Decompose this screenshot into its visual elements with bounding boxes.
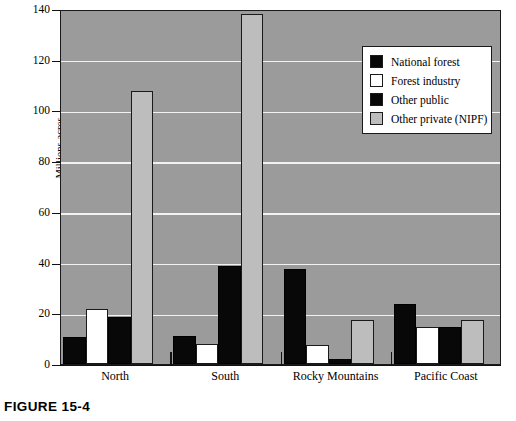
legend-item: Other private (NIPF) [370,109,485,128]
x-axis-label-south: South [170,369,280,384]
x-axis-label-rocky-mountains: Rocky Mountains [281,369,391,384]
legend-swatch-icon [370,74,383,87]
y-tick-label: 140 [16,4,50,16]
legend-item: Forest industry [370,71,485,90]
bar-south-national-forest [173,336,196,364]
y-tick-mark [52,365,60,366]
legend-swatch-icon [370,55,383,68]
chart-legend: National forestForest industryOther publ… [362,46,492,134]
y-tick-label: 20 [16,308,50,320]
y-tick-mark [52,10,60,11]
bar-pacific-coast-other-public [439,327,462,364]
figure-caption: FIGURE 15-4 [4,399,90,414]
gridline [61,213,500,215]
x-axis-label-pacific-coast: Pacific Coast [391,369,501,384]
bar-pacific-coast-national-forest [394,304,417,364]
legend-label: Other private (NIPF) [391,113,487,125]
y-tick-mark [52,264,60,265]
bar-rocky-mountains-other-public [329,359,352,364]
legend-label: National forest [391,56,460,68]
bar-north-national-forest [63,337,86,364]
y-tick-mark [52,61,60,62]
x-tick-mark [170,352,171,365]
bar-north-forest-industry [86,309,109,364]
legend-item: National forest [370,52,485,71]
x-tick-mark [281,352,282,365]
legend-label: Other public [391,94,449,106]
bar-rocky-mountains-other-private [351,320,374,364]
y-tick-label: 40 [16,258,50,270]
y-tick-label: 120 [16,55,50,67]
y-tick-mark [52,314,60,315]
y-tick-label: 60 [16,207,50,219]
y-axis-tick-labels: 020406080100120140 [14,0,50,421]
x-axis-label-north: North [60,369,170,384]
gridline [61,264,500,266]
bar-north-other-public [108,317,131,364]
gridline [61,162,500,164]
y-tick-mark [52,111,60,112]
legend-swatch-icon [370,112,383,125]
y-tick-label: 80 [16,156,50,168]
gridline [61,315,500,317]
legend-item: Other public [370,90,485,109]
y-tick-mark [52,162,60,163]
bar-south-forest-industry [196,344,219,364]
bar-rocky-mountains-forest-industry [306,345,329,364]
bar-south-other-private [241,14,264,364]
x-axis-line [60,365,501,366]
bar-rocky-mountains-national-forest [284,269,307,364]
y-tick-mark [52,213,60,214]
bar-north-other-private [131,91,154,364]
x-tick-mark [391,352,392,365]
y-tick-label: 0 [16,359,50,371]
bar-pacific-coast-other-private [461,320,484,364]
bar-pacific-coast-forest-industry [416,327,439,364]
y-tick-label: 100 [16,105,50,117]
bar-south-other-public [218,266,241,364]
legend-swatch-icon [370,93,383,106]
figure-container: Millions acres 020406080100120140 Nation… [0,0,516,421]
legend-label: Forest industry [391,75,460,87]
